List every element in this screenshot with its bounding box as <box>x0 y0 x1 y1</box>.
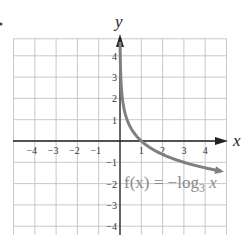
x-tick-label: −1 <box>90 145 101 156</box>
y-axis-label: y <box>113 12 123 31</box>
bullet-dot <box>0 23 3 26</box>
log-function-chart: x y −4−3−2−11234 4321−1−2−3−4 f(x) = −lo… <box>0 0 242 235</box>
x-tick-label: −4 <box>26 145 37 156</box>
x-tick-label: 1 <box>139 145 144 156</box>
x-tick-label: −3 <box>48 145 59 156</box>
x-tick-label: 4 <box>203 145 208 156</box>
x-tick-labels: −4−3−2−11234 <box>26 145 207 156</box>
x-tick-label: 3 <box>181 145 186 156</box>
y-tick-label: 4 <box>112 51 117 62</box>
y-tick-label: 2 <box>112 93 117 104</box>
y-tick-label: −3 <box>106 200 117 211</box>
function-label-prefix: f(x) = −log <box>124 173 199 192</box>
y-tick-label: 1 <box>112 115 117 126</box>
x-axis-label: x <box>232 131 241 150</box>
y-tick-label: −4 <box>106 221 117 232</box>
y-tick-label: −1 <box>106 157 117 168</box>
y-tick-label: −2 <box>106 179 117 190</box>
function-label: f(x) = −log3 x <box>124 173 217 195</box>
function-label-suffix: x <box>205 173 217 192</box>
x-tick-label: −2 <box>69 145 80 156</box>
y-tick-label: 3 <box>112 72 117 83</box>
